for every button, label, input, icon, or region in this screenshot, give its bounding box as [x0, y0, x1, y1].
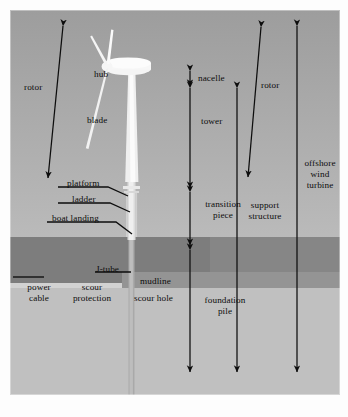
- label-rotor-left: rotor: [24, 82, 42, 93]
- diagram-image: rotor hub blade platform ladder boat lan…: [10, 10, 340, 395]
- label-blade: blade: [87, 115, 107, 126]
- label-nacelle: nacelle: [198, 73, 225, 84]
- label-power-cable-line2: cable: [16, 293, 62, 304]
- label-tower: tower: [201, 116, 222, 127]
- label-scour-protection-line2: protection: [60, 293, 124, 304]
- label-scour-protection-line1: scour: [60, 282, 124, 293]
- label-boat-landing: boat landing: [52, 213, 99, 224]
- label-j-tube: J-tube: [96, 264, 119, 275]
- label-offshore-line3: turbine: [296, 180, 340, 191]
- label-rotor-right: rotor: [261, 80, 279, 91]
- label-foundation-pile-line1: foundation: [192, 295, 258, 306]
- label-power-cable-line1: power: [16, 282, 62, 293]
- label-support-structure-line2: structure: [236, 211, 294, 222]
- label-scour-hole: scour hole: [134, 293, 173, 304]
- figure-canvas: rotor hub blade platform ladder boat lan…: [0, 0, 348, 417]
- label-foundation-pile-line2: pile: [192, 306, 258, 317]
- label-ladder: ladder: [72, 194, 96, 205]
- label-offshore-line1: offshore: [296, 158, 340, 169]
- label-hub: hub: [94, 69, 108, 80]
- label-support-structure-line1: support: [236, 200, 294, 211]
- label-platform: platform: [67, 178, 99, 189]
- label-mudline: mudline: [140, 276, 171, 287]
- label-offshore-line2: wind: [296, 169, 340, 180]
